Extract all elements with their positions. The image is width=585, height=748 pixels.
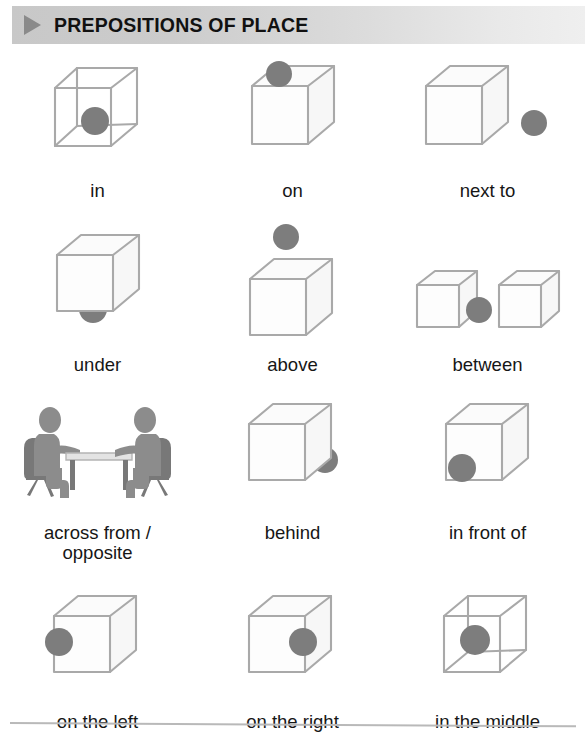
wireframe-cube-ball-center-icon [390,590,585,690]
preposition-label: across from / opposite [44,523,151,562]
preposition-label: above [267,355,317,375]
preposition-label: between [453,355,523,375]
preposition-item-between: between [390,223,585,375]
preposition-label: in the middle [435,712,540,732]
preposition-item-in-the-middle: in the middle [390,590,585,732]
cube-ball-below-icon [0,223,195,341]
preposition-item-on: on [195,58,390,201]
preposition-label: on the right [246,712,339,732]
section-header-bar: PREPOSITIONS OF PLACE [12,6,585,44]
preposition-label: on [282,181,303,201]
preposition-row: in on [0,58,585,201]
preposition-item-above: above [195,223,390,375]
cube-ball-right-edge-icon [195,590,390,690]
preposition-item-in: in [0,58,195,201]
cube-ball-behind-icon [195,398,390,503]
preposition-item-across-from: across from / opposite [0,398,195,562]
preposition-item-under: under [0,223,195,375]
preposition-label: next to [460,181,516,201]
preposition-row: under above [0,223,585,375]
cube-ball-beside-icon [390,58,585,158]
preposition-row: across from / opposite behind [0,398,585,562]
preposition-item-behind: behind [195,398,390,562]
preposition-label: behind [265,523,321,543]
preposition-row: on the left on the right [0,590,585,732]
two-cubes-ball-between-icon [390,223,585,341]
cube-ball-on-top-icon [195,58,390,158]
cube-ball-left-edge-icon [0,590,195,690]
two-people-at-table-icon [0,398,195,503]
preposition-item-on-the-left: on the left [0,590,195,732]
preposition-label: in [90,181,104,201]
page-title: PREPOSITIONS OF PLACE [54,14,308,37]
cube-ball-in-front-icon [390,398,585,503]
preposition-label: under [74,355,121,375]
preposition-item-on-the-right: on the right [195,590,390,732]
preposition-item-in-front-of: in front of [390,398,585,562]
preposition-item-next-to: next to [390,58,585,201]
preposition-label: in front of [449,523,526,543]
prepositions-grid: in on [0,50,585,732]
wireframe-cube-ball-inside-icon [0,58,195,158]
cube-ball-floating-above-icon [195,223,390,341]
triangle-right-icon [24,15,41,35]
